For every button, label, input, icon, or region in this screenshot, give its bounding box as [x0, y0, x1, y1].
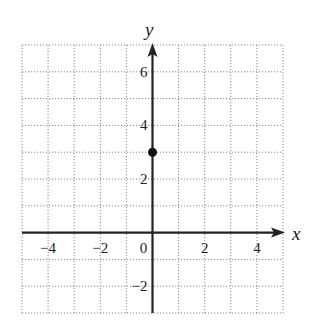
y-tick-label: −2 [132, 278, 148, 294]
coordinate-plane: −4−2024−2246 x y [0, 0, 319, 327]
x-tick-label: 0 [140, 240, 148, 256]
y-tick-label: 6 [140, 64, 148, 80]
x-tick-label: −2 [92, 240, 108, 256]
x-axis-label: x [291, 223, 301, 244]
x-tick-label: 4 [253, 240, 261, 256]
y-tick-label: 4 [140, 117, 148, 133]
data-point [148, 148, 157, 157]
y-tick-label: 2 [140, 171, 148, 187]
axes [22, 43, 285, 313]
data-points [148, 148, 157, 157]
x-tick-label: 2 [201, 240, 209, 256]
y-axis-label: y [143, 19, 154, 40]
x-tick-label: −4 [40, 240, 56, 256]
